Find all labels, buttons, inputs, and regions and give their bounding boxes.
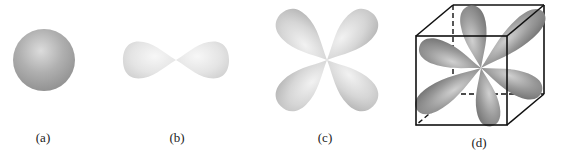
panel-label-d: (d): [471, 135, 486, 151]
d-orbital-cube: [410, 3, 552, 129]
panel-label-b: (b): [169, 130, 184, 146]
d-orbital-clover: [269, 2, 385, 118]
p-orbital-dumbbell: [123, 42, 229, 79]
panel-label-c: (c): [318, 130, 332, 146]
panel-label-a: (a): [36, 130, 50, 146]
orbital-figure: [0, 0, 561, 155]
s-orbital-sphere: [13, 29, 75, 91]
